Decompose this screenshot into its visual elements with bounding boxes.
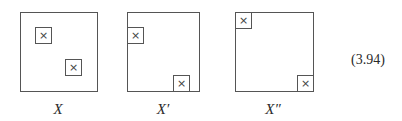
equation-number: (3.94) [351, 53, 385, 67]
marked-box-x-double-prime-1: × [235, 12, 252, 29]
label-x-double-prime: X″ [265, 102, 280, 117]
marked-box-x-prime-1: × [127, 27, 144, 44]
marked-box-x-prime-2: × [173, 75, 190, 92]
marked-box-x-1: × [35, 27, 52, 44]
cross-icon: × [39, 30, 48, 41]
cross-icon: × [239, 15, 248, 26]
marked-box-x-2: × [65, 59, 82, 76]
cross-icon: × [69, 62, 78, 73]
label-x-prime: X′ [157, 102, 169, 117]
cross-icon: × [131, 30, 140, 41]
cross-icon: × [177, 78, 186, 89]
label-x: X [53, 102, 62, 117]
cross-icon: × [301, 78, 310, 89]
square-x [20, 12, 98, 92]
marked-box-x-double-prime-2: × [297, 75, 314, 92]
